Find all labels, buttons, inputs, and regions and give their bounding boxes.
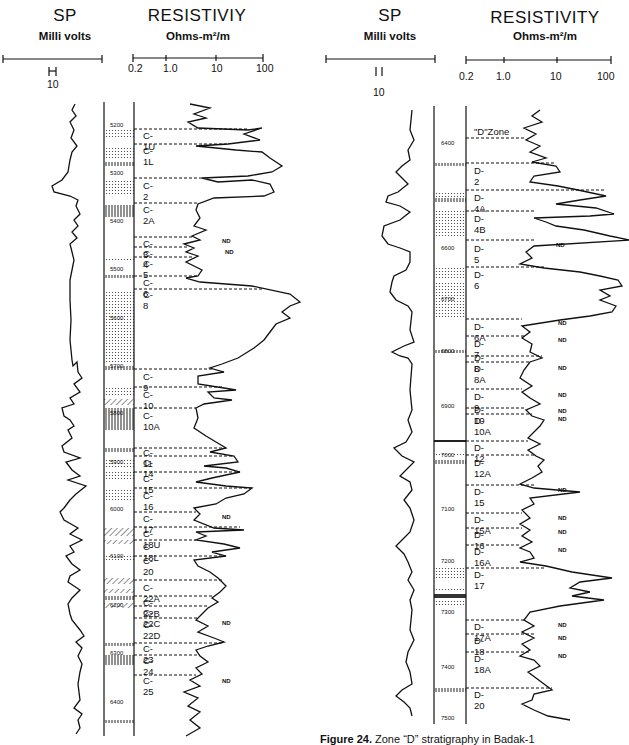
right-zone-markers [466, 138, 606, 688]
depth-label: 6200 [110, 602, 123, 608]
nd-label: ND [558, 635, 567, 641]
zone-label: C-22D [143, 619, 160, 641]
figure-caption-text: Zone “D” stratigraphy in Badak-1 [375, 733, 535, 745]
depth-label: 7000 [441, 452, 454, 458]
depth-label: 7500 [441, 715, 454, 721]
depth-label: 6600 [441, 245, 454, 251]
right-sp-curve [382, 110, 414, 716]
zone-label: C-1L [143, 145, 154, 167]
zone-label: C-24 [143, 655, 154, 677]
nd-label: ND [222, 678, 231, 684]
left-resistivity-curve [184, 104, 300, 736]
depth-label: 6700 [441, 296, 454, 302]
zone-label: D-8A [474, 363, 486, 385]
depth-label: 6100 [110, 553, 123, 559]
left-sp-curve [52, 104, 86, 734]
figure-number: Figure 24. [320, 733, 372, 745]
right-resistivity-curve [520, 110, 629, 720]
zone-label: D-2 [474, 165, 484, 187]
nd-label: ND [558, 392, 567, 398]
nd-label: ND [558, 653, 567, 659]
nd-label: ND [222, 620, 231, 626]
zone-label: C-25 [143, 675, 154, 697]
zone-label: D-20 [474, 689, 485, 711]
depth-label: 5600 [110, 315, 123, 321]
depth-label: 5700 [110, 363, 123, 369]
nd-label: ND [558, 337, 567, 343]
zone-label: C-2 [143, 180, 153, 202]
depth-label: 5800 [110, 410, 123, 416]
zone-label: C-8 [143, 289, 153, 311]
depth-label: 6400 [441, 140, 454, 146]
zone-label: D-12A [474, 457, 491, 479]
nd-label: ND [225, 249, 234, 255]
zone-label: D-16A [474, 546, 491, 568]
nd-label: ND [558, 320, 567, 326]
depth-label: 5400 [110, 218, 123, 224]
nd-label: ND [558, 547, 567, 553]
nd-label: ND [558, 622, 567, 628]
zone-label: C-20 [143, 555, 154, 577]
depth-label: 5900 [110, 459, 123, 465]
zone-label: C-10 [143, 389, 154, 411]
zone-label: D-5 [474, 243, 484, 265]
figure-caption: Figure 24. Zone “D” stratigraphy in Bada… [320, 733, 535, 745]
zone-label: D-6 [474, 269, 484, 291]
depth-label: 7200 [441, 558, 454, 564]
depth-label: 7100 [441, 506, 454, 512]
zone-label: D-15 [474, 486, 485, 508]
nd-label: ND [558, 529, 567, 535]
nd-label: ND [558, 365, 567, 371]
nd-label: ND [558, 515, 567, 521]
zone-label: D-17 [474, 569, 485, 591]
nd-label: ND [556, 242, 565, 248]
zone-label: D-10A [474, 415, 491, 437]
depth-label: 5200 [110, 122, 123, 128]
depth-label: 5500 [110, 266, 123, 272]
nd-label: ND [558, 487, 567, 493]
depth-label: 6300 [110, 650, 123, 656]
nd-label: ND [558, 408, 567, 414]
zone-label: D-4A [474, 192, 486, 214]
depth-label: 6000 [110, 506, 123, 512]
depth-label: 6400 [110, 699, 123, 705]
nd-label: ND [222, 514, 231, 520]
zone-label: C-10A [143, 410, 160, 432]
depth-label: 7400 [441, 664, 454, 670]
left-depth-labels: 5200 5300 5400 5500 5600 5700 5800 5900 … [104, 0, 134, 744]
zone-label: C-2A [143, 204, 155, 226]
nd-label: ND [558, 416, 567, 422]
depth-label: 5300 [110, 170, 123, 176]
depth-label: 6800 [441, 348, 454, 354]
zone-label: "D"Zone [474, 126, 509, 137]
nd-label: ND [222, 238, 231, 244]
zone-label: D-18A [474, 653, 491, 675]
zone-label: D-4B [474, 213, 486, 235]
depth-label: 6900 [441, 403, 454, 409]
depth-label: 7300 [441, 609, 454, 615]
zone-label: C-16 [143, 490, 154, 512]
right-depth-labels: 6400 6600 6700 6800 6900 7000 7100 7200 … [434, 0, 466, 744]
